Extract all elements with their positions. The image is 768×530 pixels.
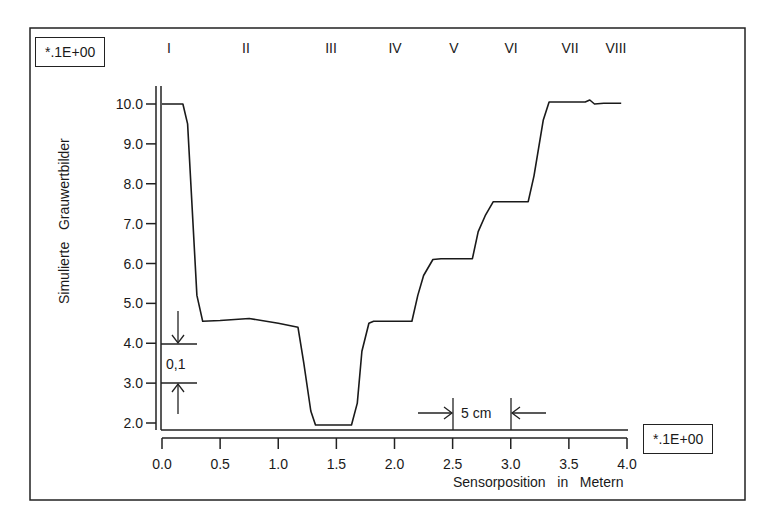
y-tick-label: 7.0: [95, 216, 143, 232]
x-tick-label: 1.5: [327, 456, 346, 472]
region-label: II: [242, 40, 250, 56]
chart-figure: *.1E+00 *.1E+00 IIIIIIIVVVIVIIVIII 10.09…: [0, 0, 768, 530]
x-tick-label: 1.0: [269, 456, 288, 472]
dimension-0-1-label: 0,1: [166, 357, 185, 371]
y-tick-label: 10.0: [95, 96, 143, 112]
dimension-5cm-label: 5 cm: [461, 406, 491, 420]
y-tick-label: 9.0: [95, 136, 143, 152]
region-label: VII: [561, 40, 578, 56]
y-tick-label: 3.0: [95, 375, 143, 391]
x-scale-box: *.1E+00: [643, 424, 713, 454]
y-scale-box: *.1E+00: [35, 37, 105, 67]
y-tick-label: 5.0: [95, 295, 143, 311]
region-label: VIII: [605, 40, 626, 56]
x-tick-label: 0.0: [152, 456, 171, 472]
y-axis-ticks: [146, 104, 156, 423]
y-tick-label: 2.0: [95, 415, 143, 431]
region-label: IV: [388, 40, 401, 56]
region-label: I: [167, 40, 171, 56]
y-tick-label: 6.0: [95, 256, 143, 272]
x-tick-label: 3.5: [559, 456, 578, 472]
y-tick-label: 4.0: [95, 335, 143, 351]
x-tick-label: 2.5: [443, 456, 462, 472]
region-label: III: [325, 40, 337, 56]
x-tick-label: 2.0: [385, 456, 404, 472]
x-axis-ticks: [162, 438, 627, 449]
data-line: [162, 100, 621, 425]
x-axis-title: Sensorposition in Metern: [453, 475, 623, 489]
x-tick-label: 4.0: [617, 456, 636, 472]
region-label: VI: [504, 40, 517, 56]
x-tick-label: 3.0: [501, 456, 520, 472]
y-tick-label: 8.0: [95, 176, 143, 192]
y-axis-title: Simulierte Grauwertbilder: [56, 138, 72, 304]
region-label: V: [449, 40, 458, 56]
x-tick-label: 0.5: [210, 456, 229, 472]
